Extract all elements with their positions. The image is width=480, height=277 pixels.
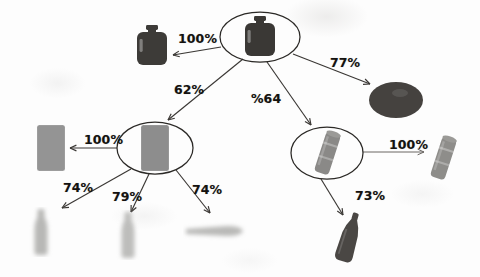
right-node-can-outline[interactable] [291,127,363,179]
edge-root-to-right-node-label: %64 [251,91,281,106]
diagram-canvas: 100%77%62%%64100%74%79%74%100%73% [0,0,480,277]
edge-root-to-jug-label: 100% [178,31,217,46]
edge-left-to-bottle-b-label: 79% [112,189,142,204]
edge-root-to-disc-label: 77% [330,55,360,70]
root-node-jug-outline[interactable] [220,12,300,62]
left-node-grey-block-outline[interactable] [117,122,193,174]
edge-left-to-smear-label: 74% [192,182,222,197]
edge-left-to-block-label: 100% [84,132,123,147]
edge-root-to-left-node-label: 62% [174,82,204,97]
edge-right-to-bottle-dark-label: 73% [355,188,385,203]
edge-right-to-can-label: 100% [389,137,428,152]
edge-left-to-bottle-a-label: 74% [63,180,93,195]
